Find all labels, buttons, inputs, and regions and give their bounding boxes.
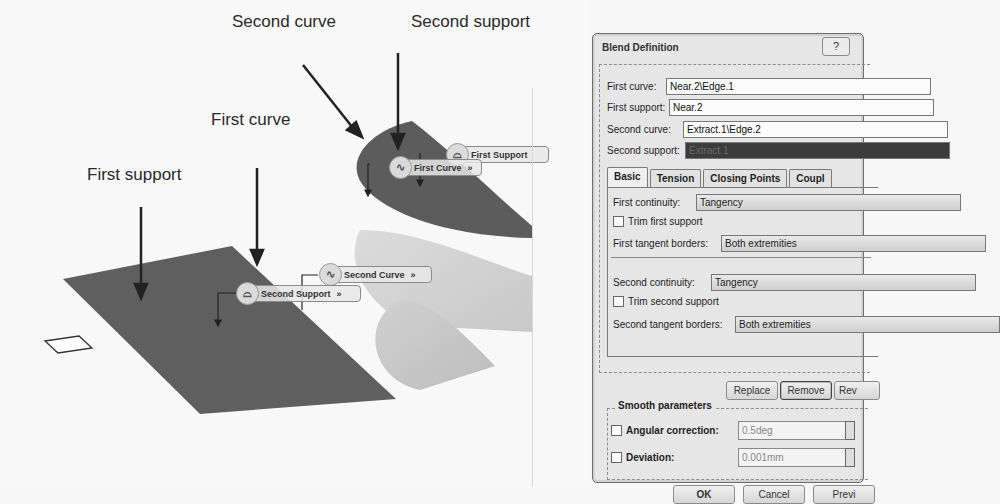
- first-support-label: First support:: [607, 102, 669, 113]
- second-support-label: Second support:: [607, 145, 685, 156]
- callout-second-support: Second support: [411, 12, 530, 32]
- viewport-divider: [532, 88, 533, 487]
- first-support-field[interactable]: Near.2: [669, 99, 934, 116]
- second-curve-field[interactable]: Extract.1\Edge.2: [683, 121, 948, 138]
- callout-second-curve: Second curve: [232, 12, 336, 32]
- second-tangent-borders-label: Second tangent borders:: [613, 319, 735, 330]
- angular-correction-checkbox[interactable]: [611, 425, 622, 436]
- first-curve-label: First curve:: [607, 81, 666, 92]
- second-curve-row: Second curve: Extract.1\Edge.2: [607, 121, 948, 138]
- first-continuity-select[interactable]: Tangency: [696, 194, 961, 211]
- tag-first-curve[interactable]: ∿ First Curve »: [394, 159, 482, 176]
- cancel-button[interactable]: Cancel: [743, 485, 805, 504]
- deviation-spinner[interactable]: [845, 448, 855, 467]
- dialog-title: Blend Definition: [602, 42, 679, 53]
- smooth-parameters-group: [607, 408, 868, 480]
- blend-scene: [0, 0, 590, 487]
- second-tangent-borders-row: Second tangent borders: Both extremities: [613, 316, 1000, 333]
- tab-coupling[interactable]: Coupl: [789, 169, 831, 187]
- second-continuity-row: Second continuity: Tangency: [613, 274, 976, 291]
- help-button[interactable]: ?: [822, 37, 850, 56]
- trim-second-support-label: Trim second support: [628, 296, 719, 307]
- tag-second-support[interactable]: ⌓ Second Support »: [241, 285, 361, 302]
- second-support-row: Second support: Extract.1: [607, 142, 950, 159]
- first-continuity-row: First continuity: Tangency: [613, 194, 961, 211]
- help-icon: ?: [833, 40, 839, 52]
- ok-button[interactable]: OK: [673, 485, 735, 504]
- deviation-row: Deviation:: [611, 452, 674, 463]
- deviation-input[interactable]: 0.001mm: [738, 448, 853, 467]
- 3d-viewport[interactable]: Second curve Second support First curve …: [0, 0, 590, 487]
- first-support-row: First support: Near.2: [607, 99, 934, 116]
- first-curve-row: First curve: Near.2\Edge.1: [607, 78, 931, 95]
- first-continuity-label: First continuity:: [613, 197, 696, 208]
- smooth-parameters-title: Smooth parameters: [615, 400, 715, 411]
- angular-correction-input[interactable]: 0.5deg: [738, 421, 853, 440]
- first-curve-field[interactable]: Near.2\Edge.1: [666, 78, 931, 95]
- angular-correction-row: Angular correction:: [611, 425, 719, 436]
- trim-second-support-checkbox[interactable]: [613, 296, 624, 307]
- chevron-right-icon: »: [411, 270, 416, 280]
- remove-button[interactable]: Remove: [780, 381, 832, 400]
- tag-second-curve[interactable]: ∿ Second Curve »: [324, 266, 432, 283]
- second-continuity-select[interactable]: Tangency: [711, 274, 976, 291]
- axis-glyph-icon: [45, 336, 92, 353]
- trim-second-support-row[interactable]: Trim second support: [613, 296, 719, 307]
- second-tangent-borders-select[interactable]: Both extremities: [735, 316, 1000, 333]
- angular-correction-spinner[interactable]: [845, 421, 855, 440]
- chevron-right-icon: »: [468, 163, 473, 173]
- first-tangent-borders-row: First tangent borders: Both extremities: [613, 235, 986, 252]
- callout-first-support: First support: [87, 165, 181, 185]
- second-support-field[interactable]: Extract.1: [685, 142, 950, 159]
- trim-first-support-row[interactable]: Trim first support: [613, 216, 703, 227]
- chevron-right-icon: »: [337, 289, 342, 299]
- first-tangent-borders-select[interactable]: Both extremities: [721, 235, 986, 252]
- second-support-surface: [357, 121, 532, 238]
- deviation-checkbox[interactable]: [611, 452, 622, 463]
- second-continuity-label: Second continuity:: [613, 277, 711, 288]
- tab-closing-points[interactable]: Closing Points: [703, 169, 787, 187]
- preview-button[interactable]: Previ: [813, 485, 875, 504]
- support-icon: ⌓: [236, 282, 259, 305]
- separator: [611, 257, 871, 258]
- first-tangent-borders-label: First tangent borders:: [613, 238, 721, 249]
- deviation-label: Deviation:: [626, 452, 674, 463]
- tab-bar: Basic Tension Closing Points Coupl: [607, 169, 834, 187]
- blend-definition-dialog: Blend Definition ? First curve: Near.2\E…: [592, 33, 864, 483]
- tab-basic[interactable]: Basic: [607, 167, 648, 187]
- reverse-button[interactable]: Rev: [834, 381, 880, 400]
- second-curve-label: Second curve:: [607, 124, 683, 135]
- tab-tension[interactable]: Tension: [650, 169, 702, 187]
- curve-icon: ∿: [319, 263, 342, 286]
- trim-first-support-checkbox[interactable]: [613, 216, 624, 227]
- angular-correction-label: Angular correction:: [626, 425, 719, 436]
- replace-button[interactable]: Replace: [726, 381, 778, 400]
- trim-first-support-label: Trim first support: [628, 216, 703, 227]
- curve-icon: ∿: [389, 156, 412, 179]
- callout-first-curve: First curve: [211, 110, 290, 130]
